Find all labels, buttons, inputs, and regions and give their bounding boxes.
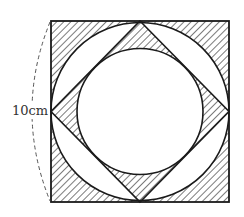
geometry-diagram: 10cm <box>0 0 244 217</box>
dimension-label: 10cm <box>12 103 48 118</box>
